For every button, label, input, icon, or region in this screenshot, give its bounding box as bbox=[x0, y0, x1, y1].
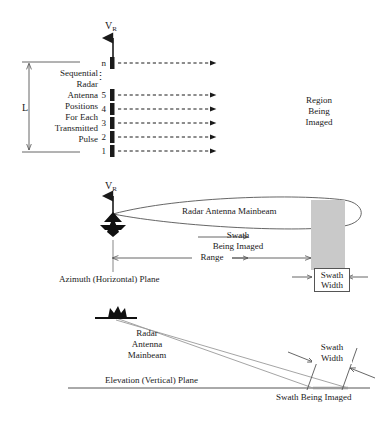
pulse-label-1: 1 bbox=[94, 146, 106, 156]
swath-shaded-region-azimuth bbox=[311, 200, 345, 270]
sequential-positions-caption: Sequential Radar Antenna Positions For E… bbox=[34, 68, 98, 145]
swath-being-imaged-label-azimuth: Swath Being Imaged bbox=[196, 230, 280, 252]
pulse-label-3: 3 bbox=[94, 118, 106, 128]
swath-being-imaged-label-elevation: Swath Being Imaged bbox=[276, 392, 352, 403]
aircraft-elevation-icon bbox=[95, 306, 137, 318]
pulse-label-4: 4 bbox=[94, 104, 106, 114]
middle-velocity-label: VR bbox=[105, 180, 117, 191]
region-being-imaged-caption: Region Being Imaged bbox=[288, 95, 350, 128]
swath-width-label-azimuth: Swath Width bbox=[314, 268, 350, 292]
swath-width-label-elevation: Swath Width bbox=[312, 342, 352, 364]
pulse-position-ticks bbox=[110, 57, 115, 157]
elevation-mainbeam-label: Radar Antenna Mainbeam bbox=[112, 328, 182, 361]
elevation-plane-label: Elevation (Vertical) Plane bbox=[103, 375, 200, 386]
pulse-label-n: n bbox=[94, 58, 106, 68]
pulse-label-5: 5 bbox=[94, 90, 106, 100]
pulse-label-2: 2 bbox=[94, 132, 106, 142]
top-velocity-label: VR bbox=[105, 20, 117, 31]
pulse-ellipsis: ⋮ bbox=[94, 72, 106, 81]
sar-geometry-diagram: VR L Sequential Radar Antenna Positions … bbox=[0, 0, 387, 422]
aperture-length-label: L bbox=[22, 102, 28, 113]
pulse-rays bbox=[118, 63, 216, 151]
range-label: Range bbox=[192, 252, 232, 263]
azimuth-mainbeam-label: Radar Antenna Mainbeam bbox=[180, 206, 278, 217]
azimuth-plane-label: Azimuth (Horizontal) Plane bbox=[59, 274, 159, 285]
